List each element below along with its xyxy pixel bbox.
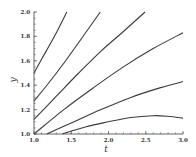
x-ticks: 1.01.52.02.53.0 xyxy=(29,131,188,143)
x-tick-label: 2.0 xyxy=(104,137,114,143)
solution-curve xyxy=(34,33,183,134)
y-tick-label: 1.0 xyxy=(20,131,30,137)
curves-group xyxy=(34,12,183,134)
y-ticks: 1.01.21.41.61.82.0 xyxy=(20,9,37,137)
x-axis: 1.01.52.02.53.0 xyxy=(29,131,188,143)
y-tick-label: 1.6 xyxy=(20,58,30,64)
x-tick-label: 1.0 xyxy=(29,137,39,143)
x-tick-label: 3.0 xyxy=(178,137,188,143)
y-tick-label: 2.0 xyxy=(20,9,30,15)
x-axis-label: t xyxy=(104,144,108,154)
y-axis: 1.01.21.41.61.82.0 xyxy=(20,9,37,137)
y-tick-label: 1.8 xyxy=(20,33,30,39)
line-chart: 1.01.52.02.53.0 1.01.21.41.61.82.0 t y xyxy=(0,0,196,157)
solution-curve xyxy=(34,12,100,101)
solution-curve xyxy=(34,12,67,73)
y-axis-label: y xyxy=(8,77,18,84)
x-tick-label: 1.5 xyxy=(66,137,76,143)
x-tick-label: 2.5 xyxy=(141,137,151,143)
y-tick-label: 1.2 xyxy=(20,107,30,113)
y-tick-label: 1.4 xyxy=(20,82,30,88)
solution-curve xyxy=(47,82,183,134)
